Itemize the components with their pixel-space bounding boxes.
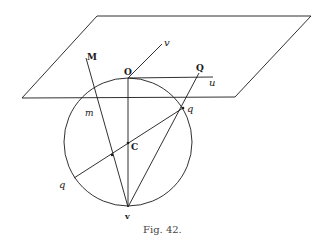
line-M-V	[86, 58, 128, 207]
label-V: v	[124, 211, 130, 221]
line-O-v	[128, 44, 162, 78]
label-v: v	[164, 37, 170, 48]
point-C	[127, 142, 130, 145]
line-V-Q	[128, 73, 199, 207]
point-q-right	[182, 107, 185, 110]
label-q-left: q	[59, 179, 65, 190]
label-q-right: q	[187, 103, 193, 114]
label-C: C	[131, 142, 138, 152]
figure-diagram: M v O Q u m q C q v Fig. 42.	[0, 0, 323, 249]
label-m: m	[85, 108, 94, 118]
label-u: u	[209, 77, 215, 88]
label-M: M	[87, 52, 97, 62]
plane-parallelogram	[22, 16, 311, 98]
label-O: O	[124, 67, 132, 77]
point-intersection	[111, 154, 113, 156]
line-O-u	[128, 77, 213, 78]
label-Q: Q	[196, 63, 204, 73]
figure-caption: Fig. 42.	[143, 224, 182, 235]
